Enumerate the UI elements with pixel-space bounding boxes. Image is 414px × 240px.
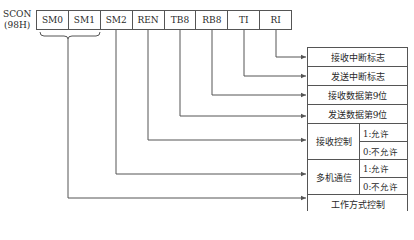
line-tb8: [180, 30, 306, 116]
line-rb8: [212, 30, 306, 95]
desc-ren-opt1: 1:允许: [360, 124, 407, 142]
desc-sm2-opt0: 0:不允许: [360, 178, 407, 195]
desc-ren-opt0: 0:不允许: [360, 142, 407, 159]
line-ti: [244, 30, 306, 76]
description-panel: 接收中断标志 发送中断标志 接收数据第9位 发送数据第9位 接收控制 1:允许 …: [307, 47, 408, 211]
brace-sm0-sm1: [40, 32, 100, 39]
desc-sm2: 多机通信 1:允许 0:不允许: [308, 160, 407, 195]
desc-rb8: 接收数据第9位: [308, 86, 407, 105]
line-ren: [148, 30, 306, 140]
desc-ri: 接收中断标志: [308, 48, 407, 67]
desc-sm2-opt1: 1:允许: [360, 160, 407, 178]
desc-tb8: 发送数据第9位: [308, 105, 407, 124]
desc-ren-label: 接收控制: [308, 124, 360, 159]
line-ri: [276, 30, 306, 57]
desc-ti: 发送中断标志: [308, 67, 407, 86]
desc-ren: 接收控制 1:允许 0:不允许: [308, 124, 407, 160]
desc-sm01: 工作方式控制: [308, 195, 407, 211]
line-sm2: [116, 30, 306, 174]
desc-sm2-label: 多机通信: [308, 160, 360, 194]
